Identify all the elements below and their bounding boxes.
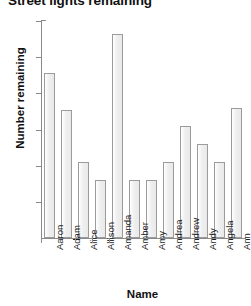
bar	[112, 34, 123, 238]
x-axis-tick	[75, 238, 76, 243]
x-axis-tick-label: Aaron	[54, 225, 65, 250]
x-axis-tick	[92, 238, 93, 243]
x-axis-tick-label: Alice	[88, 229, 99, 250]
x-axis-tick-label: Amy	[156, 231, 167, 250]
x-axis-tick-label: Amber	[139, 222, 150, 250]
bar	[44, 73, 55, 238]
bar-chart: Street lights remaining Number remaining…	[0, 0, 251, 306]
x-axis-tick	[58, 238, 59, 243]
x-axis-tick-label: Andrew	[190, 218, 201, 250]
y-axis-tick	[36, 166, 41, 167]
y-axis-tick	[36, 21, 41, 22]
x-axis-tick	[228, 238, 229, 243]
x-axis-tick	[126, 238, 127, 243]
y-axis-tick	[36, 57, 41, 58]
x-axis-tick	[41, 238, 42, 243]
x-axis-tick-label: Andy	[207, 228, 218, 250]
x-axis-tick	[143, 238, 144, 243]
bar	[231, 108, 242, 238]
x-axis-tick	[160, 238, 161, 243]
y-axis-tick	[36, 202, 41, 203]
y-axis-tick	[36, 130, 41, 131]
chart-title: Street lights remaining	[8, 0, 238, 8]
x-axis-tick	[194, 238, 195, 243]
y-axis-title: Number remaining	[14, 28, 26, 168]
x-axis-tick	[211, 238, 212, 243]
plot-area: 246810120	[41, 21, 245, 238]
x-axis-tick	[109, 238, 110, 243]
y-axis-tick	[36, 93, 41, 94]
x-axis-tick-label: Allison	[105, 222, 116, 250]
x-axis-tick-label: Andrea	[173, 219, 184, 250]
x-axis-title: Name	[40, 288, 245, 300]
bar	[61, 110, 72, 238]
x-axis-tick-label: Angela	[224, 220, 235, 250]
x-axis-tick	[245, 238, 246, 243]
x-axis-tick-label: Amanda	[122, 215, 133, 250]
x-axis-tick	[177, 238, 178, 243]
x-axis-tick-label: Adam	[71, 225, 82, 250]
